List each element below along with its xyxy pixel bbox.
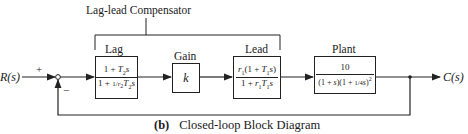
caption-text: Closed-loop Block Diagram	[179, 118, 320, 132]
input-label: R(s)	[0, 71, 20, 83]
lead-numerator: r1(1 + T1s)	[236, 65, 278, 77]
lead-transfer-function: r1(1 + T1s) 1 + r1T1s	[236, 65, 278, 91]
plant-transfer-function: 10 (1 + s)(1 + 1/4s)2	[316, 63, 373, 87]
lag-label: Lag	[105, 44, 123, 56]
lead-label: Lead	[245, 44, 268, 56]
sum-plus-sign: +	[36, 64, 42, 75]
output-label: C(s)	[443, 71, 464, 83]
lead-denominator: 1 + r1T1s	[239, 78, 275, 90]
plant-label: Plant	[332, 44, 356, 56]
sum-minus-sign: −	[63, 85, 69, 96]
gain-label: Gain	[174, 51, 196, 63]
lag-denominator: 1 + 1/r2T2s	[96, 78, 137, 90]
lag-transfer-function: 1 + T2s 1 + 1/r2T2s	[96, 65, 137, 91]
lead-block: r1(1 + T1s) 1 + r1T1s	[233, 56, 281, 99]
lag-numerator: 1 + T2s	[102, 65, 132, 77]
compensator-title: Lag-lead Compensator	[86, 5, 191, 17]
gain-block: k	[172, 63, 200, 93]
gain-value: k	[183, 71, 188, 86]
plant-block: 10 (1 + s)(1 + 1/4s)2	[314, 56, 376, 94]
lag-block: 1 + T2s 1 + 1/r2T2s	[95, 56, 138, 99]
output-label-text: C(s)	[443, 70, 464, 84]
caption-label: (b)	[154, 118, 169, 132]
plant-denominator: (1 + s)(1 + 1/4s)2	[316, 75, 373, 87]
figure-caption: (b)Closed-loop Block Diagram	[154, 118, 320, 133]
plant-numerator: 10	[338, 63, 351, 74]
input-label-text: R(s)	[0, 70, 20, 84]
